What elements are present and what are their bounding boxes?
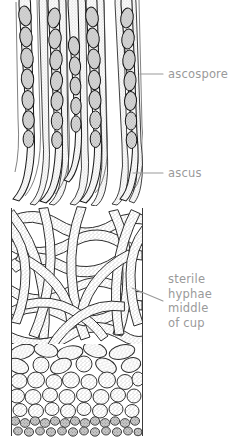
region-sterile-hyphae xyxy=(4,206,150,350)
region-cellular-layer xyxy=(5,340,144,440)
diagram-canvas xyxy=(0,0,243,446)
